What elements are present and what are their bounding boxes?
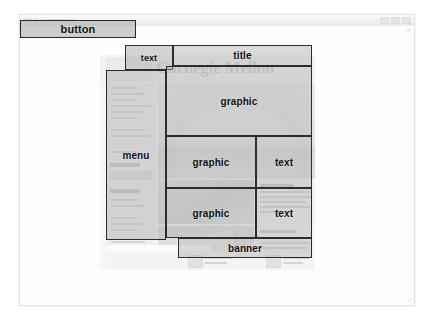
region-menu[interactable]: menu: [106, 70, 166, 240]
scroll-indicator[interactable]: [407, 28, 411, 32]
button-region-label[interactable]: button: [20, 20, 136, 38]
resize-grip[interactable]: [407, 298, 412, 303]
close-icon[interactable]: [402, 17, 411, 24]
region-text-low[interactable]: text: [256, 188, 312, 238]
region-title[interactable]: title: [173, 45, 312, 66]
region-graphic-top[interactable]: graphic: [166, 66, 312, 136]
region-text-mid[interactable]: text: [256, 136, 312, 188]
minimize-icon[interactable]: [380, 17, 389, 24]
region-banner[interactable]: banner: [178, 238, 312, 258]
maximize-icon[interactable]: [391, 17, 400, 24]
region-graphic-mid[interactable]: graphic: [166, 136, 256, 188]
window-controls: [380, 17, 411, 24]
region-graphic-low[interactable]: graphic: [166, 188, 256, 238]
